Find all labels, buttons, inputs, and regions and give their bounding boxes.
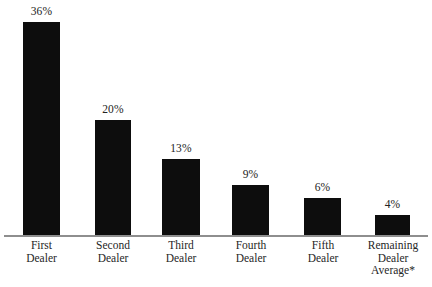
bar-chart: 36% 20% 13% 9% 6% 4% First Dealer (0, 0, 432, 287)
bar-group-remaining-dealer-average: 4% (375, 0, 410, 237)
category-label-line: Dealer (355, 252, 431, 265)
bar-value-third-dealer: 13% (170, 142, 192, 154)
bar-fourth-dealer (232, 185, 269, 237)
category-label-fifth-dealer: Fifth Dealer (292, 239, 354, 264)
category-label-fourth-dealer: Fourth Dealer (220, 239, 282, 264)
bar-value-remaining-dealer-average: 4% (385, 198, 401, 210)
category-label-first-dealer: First Dealer (11, 239, 72, 264)
bar-fifth-dealer (304, 198, 341, 237)
bar-first-dealer (23, 22, 60, 237)
bar-group-third-dealer: 13% (162, 0, 200, 237)
bar-third-dealer (162, 159, 200, 237)
x-axis-line (4, 235, 428, 237)
category-label-third-dealer: Third Dealer (150, 239, 212, 264)
bar-remaining-dealer-average (375, 215, 410, 237)
category-label-line: Dealer (150, 252, 212, 265)
category-label-line: Dealer (220, 252, 282, 265)
bar-group-first-dealer: 36% (23, 0, 60, 237)
bar-second-dealer (95, 120, 131, 237)
bar-group-second-dealer: 20% (95, 0, 131, 237)
category-label-line: Fifth (292, 239, 354, 252)
category-label-line: Dealer (82, 252, 144, 265)
plot-area: 36% 20% 13% 9% 6% 4% (0, 0, 432, 237)
category-label-line: Remaining (355, 239, 431, 252)
category-label-line: Dealer (11, 252, 72, 265)
bar-value-fifth-dealer: 6% (315, 181, 331, 193)
bar-value-second-dealer: 20% (102, 103, 124, 115)
bar-group-fifth-dealer: 6% (304, 0, 341, 237)
category-label-line: First (11, 239, 72, 252)
bar-value-first-dealer: 36% (31, 5, 53, 17)
category-label-line: Third (150, 239, 212, 252)
category-label-second-dealer: Second Dealer (82, 239, 144, 264)
category-label-line: Fourth (220, 239, 282, 252)
category-label-remaining-dealer-average: Remaining Dealer Average* (355, 239, 431, 277)
category-label-line: Second (82, 239, 144, 252)
category-label-line: Dealer (292, 252, 354, 265)
bar-group-fourth-dealer: 9% (232, 0, 269, 237)
category-label-line: Average* (355, 264, 431, 277)
bar-value-fourth-dealer: 9% (243, 168, 259, 180)
category-axis-labels: First Dealer Second Dealer Third Dealer … (0, 239, 432, 287)
